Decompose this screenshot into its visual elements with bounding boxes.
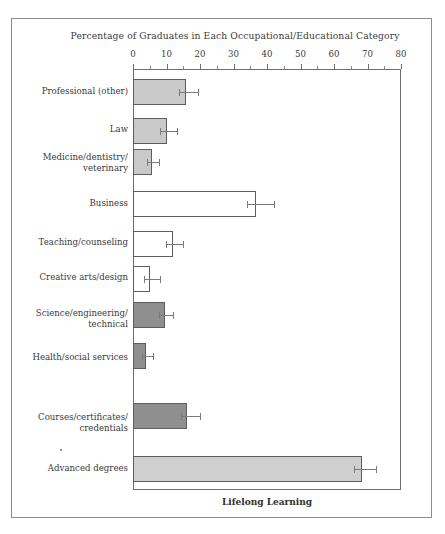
x-tick-label-40: 40: [262, 49, 273, 59]
category-label-business: Business: [0, 198, 128, 209]
x-tick-label-80: 80: [396, 49, 407, 59]
x-axis-title: Lifelong Learning: [133, 497, 401, 507]
page-speck: [60, 449, 62, 451]
category-label-line-1: Courses/certificates/: [38, 412, 128, 422]
category-label-professional-other: Professional (other): [0, 86, 128, 97]
plot-right-spine: [400, 69, 401, 490]
x-axis-line: [133, 69, 401, 70]
x-tick-label-60: 60: [329, 49, 340, 59]
error-bar-line-4: [166, 244, 183, 245]
plot-bottom-spine: [133, 489, 401, 490]
x-tick-label-10: 10: [161, 49, 172, 59]
x-minor-tick-35: [250, 66, 251, 69]
error-bar-cap-8-high: [200, 413, 201, 420]
plot-area: 01020304050607080: [133, 69, 401, 490]
bar-3: [133, 191, 256, 217]
error-bar-line-8: [181, 416, 200, 417]
x-minor-tick-45: [284, 66, 285, 69]
category-label-advanced-degrees: Advanced degrees: [0, 463, 128, 474]
bar-0: [133, 79, 186, 105]
bar-9: [133, 456, 362, 482]
error-bar-cap-0-high: [198, 89, 199, 96]
x-minor-tick-5: [150, 66, 151, 69]
x-tick-80: [401, 64, 402, 69]
x-tick-70: [368, 64, 369, 69]
x-tick-20: [200, 64, 201, 69]
x-tick-label-0: 0: [130, 49, 135, 59]
category-label-health-social-services: Health/social services: [0, 352, 128, 363]
x-tick-60: [334, 64, 335, 69]
error-bar-cap-4-low: [166, 241, 167, 248]
error-bar-cap-6-high: [173, 312, 174, 319]
error-bar-line-1: [160, 131, 177, 132]
error-bar-cap-3-low: [247, 201, 248, 208]
error-bar-cap-8-low: [181, 413, 182, 420]
error-bar-cap-5-low: [144, 276, 145, 283]
category-label-teaching-counseling: Teaching/counseling: [0, 237, 128, 248]
error-bar-cap-9-low: [354, 466, 355, 473]
x-tick-40: [267, 64, 268, 69]
category-label-courses-certificates-credentials: Courses/certificates/credentials: [0, 412, 128, 433]
error-bar-line-2: [147, 162, 159, 163]
x-tick-label-20: 20: [195, 49, 206, 59]
x-tick-10: [167, 64, 168, 69]
figure-canvas: Percentage of Graduates in Each Occupati…: [0, 0, 445, 534]
error-bar-cap-5-high: [160, 276, 161, 283]
error-bar-line-0: [179, 92, 198, 93]
error-bar-line-6: [159, 315, 172, 316]
x-minor-tick-15: [183, 66, 184, 69]
category-label-law: Law: [0, 124, 128, 135]
category-label-column: Professional (other) Law Medicine/dentis…: [0, 0, 128, 534]
category-label-line-1: Science/engineering/: [36, 308, 128, 318]
error-bar-cap-3-high: [274, 201, 275, 208]
error-bar-cap-1-high: [177, 128, 178, 135]
category-label-line-1: Medicine/dentistry/: [43, 152, 128, 162]
error-bar-cap-0-low: [179, 89, 180, 96]
error-bar-cap-1-low: [160, 128, 161, 135]
x-minor-tick-75: [384, 66, 385, 69]
error-bar-cap-2-low: [147, 159, 148, 166]
x-tick-label-70: 70: [362, 49, 373, 59]
error-bar-cap-7-high: [153, 353, 154, 360]
error-bar-cap-6-low: [159, 312, 160, 319]
error-bar-line-3: [247, 204, 274, 205]
x-tick-30: [234, 64, 235, 69]
category-label-creative-arts-design: Creative arts/design: [0, 272, 128, 283]
category-label-line-2: veterinary: [83, 163, 128, 173]
error-bar-cap-2-high: [159, 159, 160, 166]
error-bar-cap-9-high: [376, 466, 377, 473]
x-tick-label-30: 30: [228, 49, 239, 59]
error-bar-cap-4-high: [183, 241, 184, 248]
category-label-science-engineering-technical: Science/engineering/technical: [0, 308, 128, 329]
x-minor-tick-55: [317, 66, 318, 69]
category-label-medicine-dentistry-veterinary: Medicine/dentistry/veterinary: [0, 152, 128, 173]
category-label-line-2: technical: [88, 319, 128, 329]
x-tick-0: [133, 64, 134, 69]
error-bar-line-7: [142, 356, 153, 357]
error-bar-line-5: [144, 279, 160, 280]
x-minor-tick-65: [351, 66, 352, 69]
x-tick-50: [301, 64, 302, 69]
x-minor-tick-25: [217, 66, 218, 69]
bar-8: [133, 403, 187, 429]
error-bar-cap-7-low: [142, 353, 143, 360]
x-tick-label-50: 50: [295, 49, 306, 59]
category-label-line-2: credentials: [79, 423, 128, 433]
error-bar-line-9: [354, 469, 376, 470]
